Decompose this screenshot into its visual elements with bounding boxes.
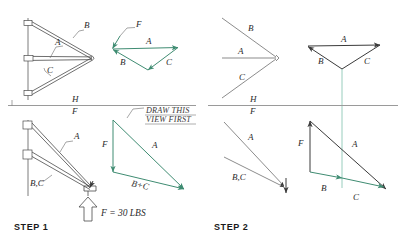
- label-member-B: B: [84, 20, 90, 30]
- step2-reference-line: H F: [208, 94, 398, 116]
- label-vector-C-top-step2: C: [364, 56, 371, 66]
- label-F-step2: F: [249, 106, 256, 116]
- leader-C-tail: [44, 68, 45, 71]
- label-member-A-step2: A: [237, 46, 244, 56]
- vector-B-top-step2: [308, 47, 342, 70]
- label-F-step1: F: [71, 106, 78, 116]
- label-vector-B-top-step2: B: [318, 56, 324, 66]
- step1-top-force-polygon: F A B C: [113, 19, 179, 70]
- label-vector-A-top: A: [145, 36, 152, 46]
- leader-F-top: [120, 28, 135, 37]
- member-B-edge1: [32, 22, 92, 56]
- label-vector-F-front-step2: F: [297, 138, 304, 148]
- technical-drawing-sheet: B A C F A B C H F: [0, 0, 401, 240]
- vector-C-top-step2: [342, 45, 380, 69]
- member-C-edge1: [32, 60, 92, 94]
- vector-F-top: [113, 36, 121, 49]
- vector-C-front-step2: [342, 178, 384, 187]
- leader-B: [73, 31, 79, 38]
- label-vector-A-front: A: [151, 140, 158, 150]
- note-line2: VIEW FIRST: [146, 115, 192, 124]
- step1-front-view: A B,C F = 30 LBS: [23, 120, 146, 221]
- truss-apex-top-view: [92, 56, 94, 61]
- label-vector-C-front-step2: C: [353, 192, 360, 202]
- label-vector-F-front: F: [101, 139, 108, 149]
- wall-anchor-front-lower: [23, 150, 32, 159]
- note-line1: DRAW THIS: [145, 106, 190, 115]
- applied-load-arrow: [79, 197, 97, 221]
- member-A-front-edge1: [32, 123, 90, 185]
- drawing-canvas: B A C F A B C H F: [0, 0, 401, 240]
- member-C-edge2: [32, 58, 92, 92]
- label-member-C-step2: C: [239, 72, 246, 82]
- member-A-edge1: [33, 56, 92, 57]
- step2-top-force-polygon: A B C: [308, 34, 380, 188]
- label-member-C: C: [47, 65, 54, 75]
- wall-anchor-front-upper: [23, 121, 32, 129]
- label-vector-C-top: C: [166, 57, 173, 67]
- label-member-BC-front: B,C: [30, 178, 45, 188]
- leader-note: [127, 108, 144, 118]
- wall-anchor-lower: [24, 91, 32, 96]
- wall-anchor-middle: [24, 56, 33, 62]
- label-vector-B-front-step2: B: [321, 183, 327, 193]
- label-member-A-front: A: [73, 131, 80, 141]
- label-member-B-step2: B: [248, 23, 254, 33]
- label-member-BC-front-step2: B,C: [232, 172, 247, 182]
- step2-top-view: B A C: [222, 18, 279, 98]
- vector-A-top-step2: [308, 45, 380, 46]
- step-2-caption: STEP 2: [214, 222, 248, 232]
- vector-A-top: [113, 48, 178, 50]
- label-applied-load: F = 30 LBS: [100, 208, 146, 218]
- member-A-edge2: [33, 60, 92, 61]
- truss-apex-step2: [276, 55, 279, 61]
- step1-top-view: B A C: [24, 18, 94, 100]
- vector-A-front: [113, 120, 184, 189]
- step-1-caption: STEP 1: [14, 222, 48, 232]
- step2-front-view: A B,C: [224, 122, 286, 193]
- leader-B-tail: [79, 30, 84, 31]
- leader-A-front: [60, 141, 73, 152]
- label-vector-B-top: B: [120, 57, 126, 67]
- member-C-step2: [222, 59, 276, 98]
- wall-anchor-upper: [24, 21, 32, 26]
- label-H-step2: H: [249, 94, 257, 104]
- label-member-A-front-step2: A: [247, 132, 254, 142]
- label-vector-A-top-step2: A: [340, 34, 347, 44]
- step1-front-force-polygon: F A B+C DRAW THIS VIEW FIRST: [101, 106, 196, 192]
- label-H-step1: H: [71, 94, 79, 104]
- vector-B-top: [113, 50, 148, 71]
- vector-C-top: [148, 48, 178, 71]
- label-member-A: A: [54, 37, 61, 47]
- step2-front-force-polygon: F A B C: [297, 121, 386, 202]
- joint-arrow-front: [90, 181, 93, 188]
- vector-B-front-step2: [310, 172, 342, 178]
- label-vector-A-front-step2: A: [351, 139, 358, 149]
- label-vector-F-top: F: [135, 19, 142, 29]
